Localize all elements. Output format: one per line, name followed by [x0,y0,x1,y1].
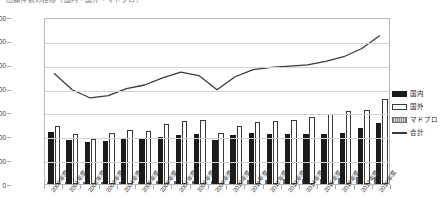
legend-label: 国内 [410,90,424,98]
line-swatch [392,132,407,134]
y-axis-tick [7,42,11,43]
chart-legend: 国内国外マドプロ合計 [392,88,445,140]
y-axis-tick [7,161,11,162]
y-axis-tick-label: 10,000 [0,158,6,165]
x-axis-labels: 2000年度2001年度2002年度2003年度2004年度2005年度2006… [0,186,445,215]
plot-area [44,18,390,185]
y-axis-tick [7,90,11,91]
chart-screenshot: 出願件数の推移（国内・国外・マドプロ） 010,00020,00030,0004… [0,0,445,215]
chart-title-strip: 出願件数の推移（国内・国外・マドプロ） [6,0,336,3]
legend-label: 国外 [410,103,424,111]
y-axis-tick-label: 30,000 [0,110,6,117]
legend-item-total: 合計 [392,127,445,138]
legend-label: 合計 [410,129,424,137]
hatched-gray-bar-swatch [392,117,407,123]
y-axis-tick [7,18,11,19]
gridline [45,43,389,44]
y-axis-tick-label: 50,000 [0,62,6,69]
y-axis-tick-label: 60,000 [0,38,6,45]
y-axis-tick [7,113,11,114]
outline-white-bar-swatch [392,104,407,110]
gridline [45,91,389,92]
y-axis-tick-label: 70,000 [0,15,6,22]
y-axis-tick-label: 20,000 [0,134,6,141]
y-axis-tick [7,66,11,67]
legend-item-overseas: 国外 [392,101,445,112]
filled-black-bar-swatch [392,91,407,97]
y-axis-tick-label: 40,000 [0,86,6,93]
gridline [45,162,389,163]
y-axis-tick [7,137,11,138]
gridline [45,67,389,68]
legend-item-madopro: マドプロ [392,114,445,125]
legend-label: マドプロ [410,116,438,124]
gridline [45,114,389,115]
gridline [45,138,389,139]
legend-item-domestic: 国内 [392,88,445,99]
y-axis: 010,00020,00030,00040,00050,00060,00070,… [0,0,44,215]
